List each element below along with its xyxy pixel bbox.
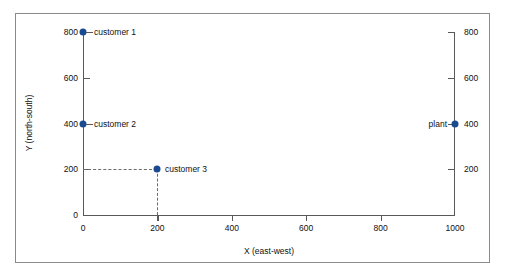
y-tick-right-800 <box>448 32 454 33</box>
y-right-tick-label-600: 600 <box>464 74 478 83</box>
data-label-plant: plant <box>429 119 447 128</box>
x-tick-label-1000: 1000 <box>446 224 465 233</box>
x-axis-title: X (east-west) <box>244 246 294 256</box>
x-tick-label-0: 0 <box>81 224 86 233</box>
x-tick-label-400: 400 <box>225 224 239 233</box>
data-label-customer-1: customer 1 <box>94 28 136 37</box>
data-point-plant[interactable] <box>452 120 459 127</box>
customer-1-leader <box>86 32 93 33</box>
y-right-tick-label-200: 200 <box>464 165 478 174</box>
y-right-tick-label-400: 400 <box>464 119 478 128</box>
data-label-customer-3: customer 3 <box>165 165 207 174</box>
y-tick-label-400: 400 <box>64 119 78 128</box>
y-tick-label-600: 600 <box>64 74 78 83</box>
plot-area: 0 200 400 600 800 200 400 600 800 0 200 … <box>83 32 455 215</box>
customer-3-dashed-horizontal <box>83 169 157 170</box>
x-tick-label-600: 600 <box>299 224 313 233</box>
data-label-customer-2: customer 2 <box>94 119 136 128</box>
y-tick-left-0 <box>84 215 90 216</box>
customer-3-dashed-vertical <box>157 169 158 215</box>
x-axis-line <box>83 215 455 216</box>
x-tick-label-800: 800 <box>374 224 388 233</box>
x-tick-200 <box>157 215 158 221</box>
x-tick-800 <box>381 215 382 221</box>
data-point-customer-3[interactable] <box>154 166 161 173</box>
y-tick-label-0: 0 <box>73 211 78 220</box>
y-axis-title: Y (north-south) <box>24 95 34 152</box>
y-tick-label-200: 200 <box>64 165 78 174</box>
x-tick-400 <box>232 215 233 221</box>
y-tick-right-200 <box>448 169 454 170</box>
x-tick-600 <box>306 215 307 221</box>
y-tick-label-800: 800 <box>64 28 78 37</box>
y-tick-left-600 <box>84 78 90 79</box>
customer-2-leader <box>86 124 93 125</box>
y-right-tick-label-800: 800 <box>464 28 478 37</box>
chart-figure: 0 200 400 600 800 200 400 600 800 0 200 … <box>0 0 505 278</box>
y-tick-right-600 <box>448 78 454 79</box>
x-tick-label-200: 200 <box>150 224 164 233</box>
